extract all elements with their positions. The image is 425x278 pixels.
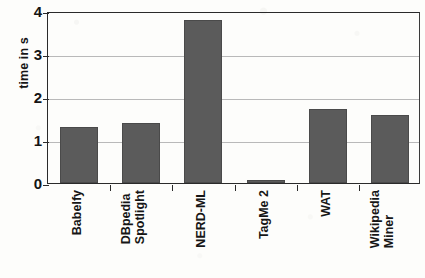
bar	[122, 123, 160, 183]
bar	[371, 115, 409, 183]
x-axis-label: Babelfy	[47, 184, 109, 278]
x-axis-label: TagMe 2	[234, 184, 296, 278]
x-axis-category-labels: BabelfyDBpediaSpotlightNERD-MLTagMe 2WAT…	[47, 184, 420, 278]
y-axis-tick-label: 1	[20, 133, 42, 148]
y-axis-tick-label: 4	[20, 4, 42, 19]
gridline	[48, 142, 419, 143]
x-axis-label: WikipediaMiner	[358, 184, 420, 278]
bar	[60, 127, 98, 183]
y-axis-tick-mark	[43, 13, 49, 14]
y-axis-tick-label: 2	[20, 90, 42, 105]
gridline	[48, 56, 419, 57]
bar	[184, 20, 222, 183]
bar	[309, 109, 347, 183]
y-axis-tick-mark	[43, 99, 49, 100]
x-axis-label-line: DBpedia	[119, 193, 133, 244]
y-axis-tick-label: 3	[20, 47, 42, 62]
y-axis-tick-mark	[43, 56, 49, 57]
plot-area	[47, 12, 420, 184]
x-axis-label-line: Spotlight	[133, 190, 147, 244]
y-axis-tick-label: 0	[20, 176, 42, 191]
x-axis-label-line: Wikipedia	[367, 190, 381, 248]
bar	[247, 180, 285, 183]
x-axis-label-line: Babelfy	[70, 190, 84, 235]
y-axis-tick-labels: 01234	[18, 0, 42, 278]
x-axis-label-line: Miner	[382, 190, 396, 248]
bar-chart-figure: time in s 01234 BabelfyDBpediaSpotlightN…	[0, 0, 425, 278]
x-axis-label: NERD-ML	[171, 184, 233, 278]
x-axis-label: DBpediaSpotlight	[109, 184, 171, 278]
x-axis-label-line: TagMe 2	[257, 190, 271, 239]
gridline	[48, 99, 419, 100]
x-axis-label-line: WAT	[319, 190, 333, 217]
y-axis-tick-mark	[43, 142, 49, 143]
x-axis-label: WAT	[296, 184, 358, 278]
x-axis-label-line: NERD-ML	[195, 190, 209, 248]
